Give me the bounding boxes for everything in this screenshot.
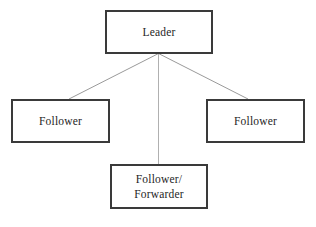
- node-follower-forwarder[interactable]: Follower/ Forwarder: [110, 164, 208, 209]
- connector-leader-to-follower-left: [69, 54, 159, 100]
- node-follower-right[interactable]: Follower: [206, 99, 305, 143]
- connector-leader-to-follower-right: [159, 54, 249, 100]
- node-follower-forwarder-label: Follower/ Forwarder: [134, 172, 184, 202]
- diagram-canvas: Leader Follower Follower Follower/ Forwa…: [0, 0, 316, 227]
- node-follower-left[interactable]: Follower: [11, 99, 110, 143]
- node-leader-label: Leader: [142, 25, 175, 40]
- node-follower-left-label: Follower: [39, 114, 82, 129]
- node-follower-right-label: Follower: [234, 114, 277, 129]
- node-leader[interactable]: Leader: [105, 10, 213, 54]
